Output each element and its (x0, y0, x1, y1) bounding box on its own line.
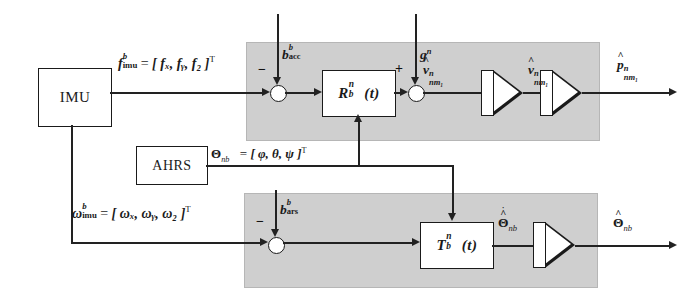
wire-gyro-sum-to-transform (283, 242, 413, 244)
integrator-bar (533, 222, 546, 268)
wire-attitude-output (575, 245, 672, 247)
wire-gravity-sum-to-velocity-integrator (423, 92, 481, 94)
wire-transform-to-attitude-integrator (492, 245, 533, 247)
arrowhead-position-output (669, 88, 677, 96)
arrowhead-acc-bias (273, 77, 281, 85)
euler-rate-hat: ^ (500, 208, 506, 219)
euler-est-sub: nb (624, 223, 633, 233)
transform-sup: n (446, 231, 452, 241)
velocity-est-hat: ^ (528, 55, 534, 66)
arrowhead-gravity-sum-in (400, 88, 408, 96)
wire-velocity-to-position-integrator (523, 92, 540, 94)
angular-rate-sub: imu (82, 211, 97, 220)
wire-acc-sum-to-rotation (285, 92, 315, 94)
specific-force-sub: imu (123, 61, 138, 70)
position-est-sub: nm₁ (624, 73, 638, 82)
angular-rate-label: ωbimu = [ ωₓ, ωᵧ, ω₂ ]T (72, 207, 191, 222)
arrowhead-attitude-output (669, 241, 677, 249)
euler-rate-sub: nb (509, 223, 518, 233)
accelerometer-bias-label: bbacc (282, 48, 289, 62)
arrowhead-rotation-attitude-in (354, 114, 362, 122)
ahrs-label: AHRS (152, 158, 191, 174)
wire-imu-to-acc-sum (110, 92, 263, 94)
acc-minus-sign: − (258, 63, 266, 77)
transform-matrix-label: Tnb (t) (437, 237, 478, 254)
attitude-integrator-block (533, 222, 575, 268)
rotation-matrix-label: Rnb (t) (338, 85, 380, 102)
integrator-triangle-fill (552, 72, 578, 112)
arrowhead-gyro-sum-in (260, 238, 268, 246)
integrator-bar (481, 70, 494, 116)
wire-position-output (582, 92, 672, 94)
transform-matrix-block: Tnb (t) (420, 222, 494, 269)
wire-imu-branch-down (71, 125, 73, 243)
arrowhead-acc-sum-in (262, 88, 270, 96)
euler-angles-base: Θ (211, 146, 221, 161)
gyro-sum-junction (268, 237, 285, 254)
acc-bias-sub: acc (289, 52, 301, 61)
imu-block: IMU (38, 68, 112, 127)
position-est-hat: ^ (617, 50, 623, 61)
wire-gravity-input (415, 14, 417, 78)
rotation-arg: (t) (364, 85, 380, 101)
ars-bias-sub: ars (287, 207, 298, 216)
arrowhead-transform-in (412, 238, 420, 246)
velocity-rate-label: ˙^vnnm₁ (423, 63, 429, 77)
velocity-estimate-label: ^vnnm₁ (528, 63, 534, 77)
euler-angles-equals: = (240, 146, 247, 161)
rotation-sup: n (349, 79, 355, 89)
ars-bias-label: bbars (280, 203, 287, 217)
arrowhead-ars-bias (271, 229, 279, 237)
ahrs-block: AHRS (136, 146, 208, 185)
euler-angles-vector: [ φ, θ, ψ ] (250, 146, 301, 161)
specific-force-transpose: T (210, 54, 215, 64)
wire-ahrs-to-transform (452, 165, 454, 214)
euler-est-hat: ^ (615, 208, 621, 219)
diagram-canvas: IMU AHRS Rnb (t) Tnb (t) (0, 0, 689, 306)
position-estimate-label: ^pnnm₁ (617, 58, 624, 72)
wire-ahrs-to-rotation (358, 122, 360, 166)
angular-rate-transpose: T (185, 204, 190, 214)
angular-rate-equals: = (100, 206, 108, 221)
euler-estimate-label: ^Θnb (613, 216, 632, 230)
rotation-sub: b (349, 89, 354, 99)
arrowhead-transform-attitude-in (448, 213, 456, 221)
arrowhead-rotation-in (314, 88, 322, 96)
integrator-triangle-fill (545, 224, 571, 264)
euler-angles-label: Θnb = [ φ, θ, ψ ]T (211, 147, 307, 161)
velocity-integrator-block (481, 70, 523, 116)
gravity-plus-sign: + (395, 62, 403, 76)
transform-arg: (t) (462, 237, 478, 253)
wire-gyro-to-sum (71, 242, 261, 244)
wire-acc-bias-input (277, 14, 279, 78)
euler-angles-sub: nb (221, 155, 229, 164)
wire-ahrs-bus (206, 165, 453, 167)
imu-label: IMU (60, 89, 91, 106)
arrowhead-gravity (411, 77, 419, 85)
euler-angles-transpose: T (302, 146, 307, 155)
velocity-rate-hat: ^ (423, 55, 429, 66)
angular-rate-vector: [ ωₓ, ωᵧ, ω₂ ] (112, 206, 186, 221)
gravity-sum-junction (408, 85, 425, 102)
euler-rate-estimate-label: ˙^Θnb (498, 216, 517, 230)
transform-sub: b (446, 241, 451, 251)
ars-minus-sign: − (256, 215, 264, 229)
integrator-triangle-fill (493, 72, 519, 112)
wire-ars-bias-input (275, 190, 277, 230)
velocity-rate-sub: nm₁ (429, 78, 443, 87)
specific-force-label: fbimu = [ fₓ, fᵧ, f₂ ]T (118, 57, 215, 72)
specific-force-vector: [ fₓ, fᵧ, f₂ ] (152, 56, 209, 71)
accelerometer-sum-junction (270, 85, 287, 102)
velocity-est-sub: nm₁ (534, 78, 548, 87)
specific-force-equals: = (141, 56, 149, 71)
rotation-matrix-block: Rnb (t) (322, 70, 396, 117)
